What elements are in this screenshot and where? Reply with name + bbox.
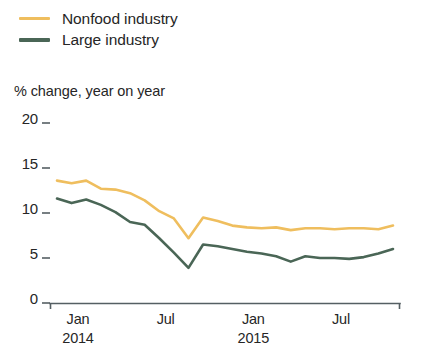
y-axis-tick-marks xyxy=(42,123,50,303)
x-axis-tick-month-3: Jul xyxy=(306,310,376,329)
x-axis-tick-label-0: Jan2014 xyxy=(43,310,113,348)
x-axis-tick-month-0: Jan xyxy=(43,310,113,329)
y-axis-tick-label-1: 5 xyxy=(6,245,38,262)
x-axis-tick-month-2: Jan xyxy=(218,310,288,329)
y-axis-tick-label-3: 15 xyxy=(6,155,38,172)
chart-container: Nonfood industry Large industry % change… xyxy=(0,0,423,359)
x-axis-tick-label-3: Jul xyxy=(306,310,376,329)
x-axis-tick-year-0: 2014 xyxy=(43,329,113,348)
x-axis-tick-label-2: Jan2015 xyxy=(218,310,288,348)
x-axis-tick-label-1: Jul xyxy=(131,310,201,329)
x-axis-tick-year-2: 2015 xyxy=(218,329,288,348)
y-axis-tick-label-0: 0 xyxy=(6,290,38,307)
x-axis-tick-month-1: Jul xyxy=(131,310,201,329)
series-line-large-industry xyxy=(57,199,393,268)
y-axis-tick-label-4: 20 xyxy=(6,110,38,127)
chart-plot xyxy=(0,0,423,359)
y-axis-tick-label-2: 10 xyxy=(6,200,38,217)
